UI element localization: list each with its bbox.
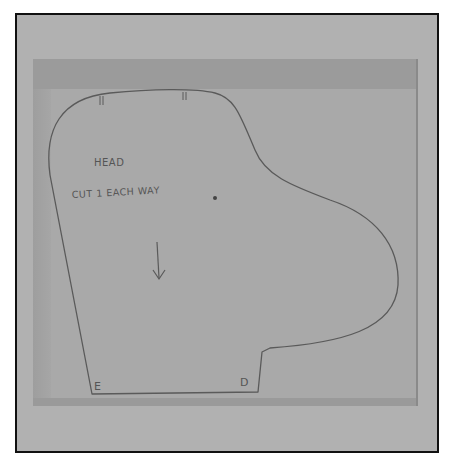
pattern-drawing: HEAD CUT 1 EACH WAY E D (0, 0, 451, 459)
grainline-arrow-icon (153, 242, 165, 279)
pattern-outline (49, 90, 398, 394)
pattern-title: HEAD (94, 157, 124, 168)
pattern-instruction: CUT 1 EACH WAY (72, 184, 161, 200)
corner-label-d: D (240, 376, 249, 389)
marking-dot (213, 196, 217, 200)
notch-marks (100, 92, 186, 105)
corner-label-e: E (94, 380, 101, 393)
